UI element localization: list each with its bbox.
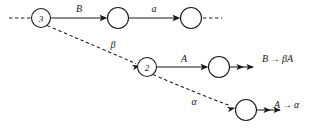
production-label-B: B → βA <box>262 53 294 64</box>
node-2-label: 2 <box>145 63 150 73</box>
edge-label-B: B <box>76 3 82 14</box>
node-middle-1[interactable] <box>209 57 230 78</box>
node-top-2[interactable] <box>181 8 202 29</box>
node-top-1[interactable] <box>108 8 129 29</box>
edge-label-alpha: α <box>191 96 197 107</box>
edge-label-a: a <box>152 3 157 14</box>
edge-label-beta: β <box>110 39 116 50</box>
node-3-label: 3 <box>38 14 44 24</box>
edge-3-to-2 <box>47 26 136 64</box>
arrowhead-2-to-b1 <box>227 107 236 112</box>
edge-label-A: A <box>180 53 188 64</box>
diagram-canvas: 3 2 B a β A α B → βA A → α <box>0 0 318 129</box>
production-label-A: A → α <box>273 99 300 110</box>
node-bottom-1[interactable] <box>236 100 257 121</box>
derivation-tree-diagram: 3 2 B a β A α B → βA A → α <box>0 0 318 129</box>
